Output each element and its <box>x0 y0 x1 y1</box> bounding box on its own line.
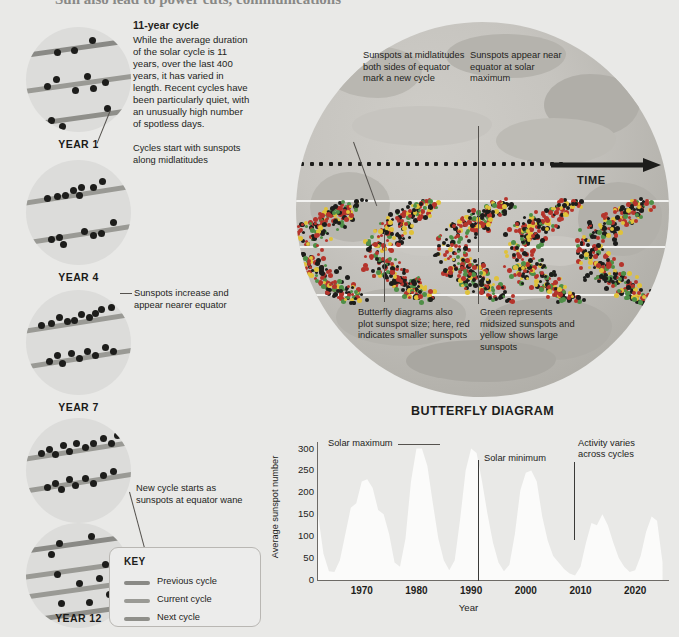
sunspot-marker <box>547 289 552 294</box>
sunspot-marker <box>343 225 347 229</box>
sunspot-marker <box>551 207 554 210</box>
year-panel-7-disc <box>26 290 131 395</box>
sunspot-marker <box>582 298 586 302</box>
sunspot-marker <box>558 292 563 297</box>
sunspot-marker <box>442 241 446 245</box>
sunspot-marker <box>314 222 317 225</box>
year-panel-10-disc <box>26 418 131 523</box>
sunspot-marker <box>360 293 363 296</box>
sunspot-marker <box>512 253 516 257</box>
sunspot-marker <box>589 256 592 259</box>
sunspot-marker <box>388 257 392 261</box>
sunspot-marker <box>347 285 350 288</box>
sunspot-marker <box>473 259 477 263</box>
year-panel-4-label: YEAR 4 <box>26 271 131 283</box>
sunspot-marker <box>585 273 590 278</box>
sunspot-marker <box>327 223 331 227</box>
sunspot-marker <box>494 276 499 281</box>
sunspot-marker <box>408 209 412 213</box>
sunspot-marker <box>474 236 477 239</box>
sunspot-marker <box>315 274 318 277</box>
sunspot-marker <box>427 209 430 212</box>
sunspot-marker <box>410 224 414 228</box>
sunspot-marker <box>546 295 550 299</box>
sunspot-marker <box>601 248 604 251</box>
sunspot-marker <box>305 225 308 228</box>
sunspot-marker <box>580 241 583 244</box>
sunspot-marker <box>635 275 639 279</box>
sunspot-marker <box>315 279 319 283</box>
sunspot-marker <box>443 253 447 257</box>
sunspot-marker <box>306 242 310 246</box>
sunspot-marker <box>320 276 324 280</box>
sunspot-marker <box>413 209 416 212</box>
sunspot-marker <box>468 263 472 267</box>
sunspot-marker <box>326 232 329 235</box>
sunspot-marker <box>459 224 463 228</box>
annotation-year1: Cycles start with sunspots along midlati… <box>133 143 263 166</box>
annotation-year12: New cycle starts as sunspots at equator … <box>136 483 248 506</box>
year-panel-7-label: YEAR 7 <box>26 401 131 413</box>
sunspot-marker <box>322 222 327 227</box>
chart-x-tick-label: 2000 <box>506 585 546 596</box>
sunspot-marker <box>509 274 514 279</box>
sunspot-marker <box>601 235 605 239</box>
sunspot-marker <box>463 251 466 254</box>
sunspot-marker <box>522 251 527 256</box>
key-title: KEY <box>124 556 145 567</box>
sunspot-marker <box>537 225 541 229</box>
chart-y-tick-label: 100 <box>282 530 314 541</box>
intro-body: While the average duration of the solar … <box>133 34 251 131</box>
sunspot-marker <box>303 278 306 281</box>
sunspot-marker <box>504 197 508 201</box>
sunspot-marker <box>351 286 354 289</box>
sunspot-marker <box>365 267 369 271</box>
sunspot-marker <box>500 296 503 299</box>
sunspot-marker <box>325 239 328 242</box>
sunspot-marker <box>541 266 544 269</box>
sunspot-marker <box>395 209 400 214</box>
sunspot-marker <box>317 253 320 256</box>
sunspot-marker <box>457 250 460 253</box>
sunspot-marker <box>539 287 544 292</box>
sunspot-marker <box>370 235 374 239</box>
sunspot-marker <box>535 262 539 266</box>
chart-y-tick-label: 300 <box>282 443 314 454</box>
sunspot-marker <box>457 240 461 244</box>
sunspot-marker <box>447 257 450 260</box>
sunspot-marker <box>334 269 339 274</box>
annotation-year7: Sunspots increase and appear nearer equa… <box>134 288 254 311</box>
sunspot-marker <box>454 244 458 248</box>
sunspot-marker <box>330 206 335 211</box>
sunspot-marker <box>324 264 327 267</box>
sunspot-marker <box>336 228 339 231</box>
sunspot-marker <box>634 219 638 223</box>
annotation-midlatitude: Sunspots at midlatitudes both sides of e… <box>363 50 467 85</box>
sunspot-marker <box>637 291 641 295</box>
sunspot-marker <box>472 265 477 270</box>
sunspot-marker <box>532 248 536 252</box>
sunspot-marker <box>639 215 643 219</box>
sunspot-marker <box>388 242 392 246</box>
sunspot-marker <box>332 211 336 215</box>
sunspot-marker <box>540 238 545 243</box>
sunspot-marker <box>606 233 611 238</box>
sunspot-marker <box>534 218 537 221</box>
sunspot-marker <box>507 227 512 232</box>
sunspot-marker <box>588 266 591 269</box>
sunspot-marker <box>649 200 654 205</box>
sunspot-marker <box>316 258 321 263</box>
sunspot-marker <box>316 244 319 247</box>
leader-color <box>478 258 479 304</box>
sunspot-marker <box>547 285 551 289</box>
sunspot-marker <box>376 270 381 275</box>
key-legend: KEY Previous cycle Current cycle Next cy… <box>109 547 261 627</box>
sunspot-marker <box>505 254 509 258</box>
chart-y-axis-line <box>317 442 318 580</box>
sunspot-marker <box>613 272 616 275</box>
sunspot-marker <box>534 210 538 214</box>
sunspot-marker <box>649 208 653 212</box>
sunspot-marker <box>544 208 549 213</box>
sunspot-marker <box>370 257 373 260</box>
sunspot-marker <box>578 228 582 232</box>
